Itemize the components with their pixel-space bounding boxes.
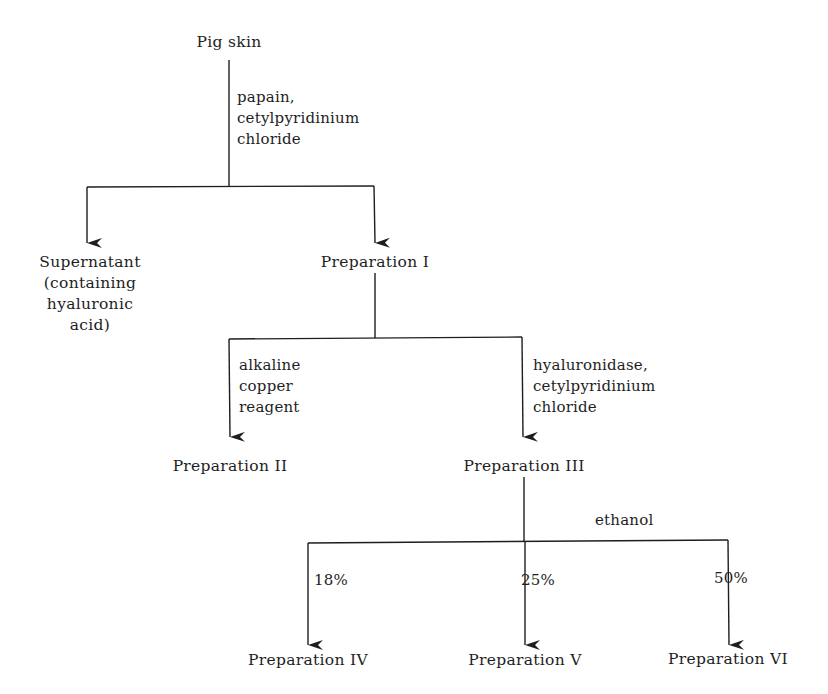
node-preparation-1: Preparation I	[305, 252, 445, 273]
node-preparation-6: Preparation VI	[648, 649, 808, 670]
node-pig-skin: Pig skin	[189, 32, 269, 53]
node-preparation-2: Preparation II	[150, 456, 310, 477]
node-supernatant: Supernatant (containing hyaluronic acid)	[20, 252, 160, 336]
node-preparation-4: Preparation IV	[228, 650, 388, 671]
edge-label-ethanol: ethanol	[595, 510, 653, 531]
edge-label-hyaluronidase: hyaluronidase, cetylpyridinium chloride	[533, 355, 655, 418]
edge-label-50-percent: 50%	[714, 568, 748, 589]
edge-label-alkaline-copper: alkaline copper reagent	[239, 355, 301, 418]
node-preparation-5: Preparation V	[445, 650, 605, 671]
edge-label-papain: papain, cetylpyridinium chloride	[237, 87, 359, 150]
edge-label-18-percent: 18%	[314, 570, 348, 591]
node-preparation-3: Preparation III	[444, 456, 604, 477]
flowchart-connectors	[0, 0, 828, 694]
edge-label-25-percent: 25%	[521, 570, 555, 591]
